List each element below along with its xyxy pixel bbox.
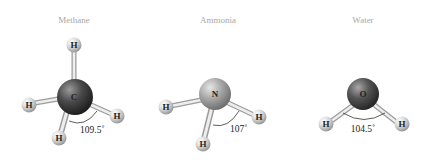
water-hydrogen-left: H xyxy=(319,117,334,132)
methane-molecule: Methane C H H H H xyxy=(22,15,125,146)
water-title: Water xyxy=(352,15,373,25)
ammonia-hydrogen-right: H xyxy=(252,110,267,125)
water-hydrogen-right: H xyxy=(395,117,410,132)
methane-title: Methane xyxy=(58,15,90,25)
water-angle-arc xyxy=(343,113,385,120)
svg-text:H: H xyxy=(322,119,329,129)
methane-hydrogen-top: H xyxy=(67,38,82,53)
ammonia-molecule: Ammonia N H H H 107˚ xyxy=(159,15,267,152)
methane-hydrogen-right: H xyxy=(110,109,125,124)
water-molecule: Water O H H 104.5˚ xyxy=(319,15,410,134)
ammonia-hydrogen-bottom: H xyxy=(196,137,211,152)
methane-bond-angle: 109.5˚ xyxy=(80,125,105,135)
svg-text:H: H xyxy=(162,102,169,112)
water-bond-angle: 104.5˚ xyxy=(351,124,376,134)
nitrogen-label: N xyxy=(212,89,219,99)
ammonia-title: Ammonia xyxy=(200,15,236,25)
ammonia-bond-angle: 107˚ xyxy=(230,124,247,134)
svg-text:H: H xyxy=(113,111,120,121)
methane-hydrogen-bottom: H xyxy=(52,131,67,146)
carbon-label: C xyxy=(71,92,78,102)
svg-text:H: H xyxy=(55,133,62,143)
svg-text:H: H xyxy=(70,40,77,50)
ammonia-hydrogen-left: H xyxy=(159,100,174,115)
svg-text:H: H xyxy=(398,119,405,129)
svg-text:H: H xyxy=(25,100,32,110)
methane-hydrogen-left: H xyxy=(22,98,37,113)
svg-text:H: H xyxy=(255,112,262,122)
molecular-geometry-diagram: Methane C H H H H xyxy=(0,0,432,168)
oxygen-label: O xyxy=(359,89,366,99)
svg-text:H: H xyxy=(199,139,206,149)
